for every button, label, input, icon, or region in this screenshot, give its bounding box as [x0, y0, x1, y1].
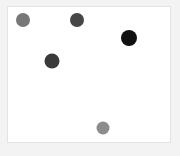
scatter-plot-area	[8, 7, 170, 142]
scatter-point	[45, 54, 60, 69]
scatter-point	[16, 13, 30, 27]
plot-panel	[7, 6, 171, 143]
scatter-point	[70, 13, 84, 27]
scatter-point	[121, 30, 137, 46]
scatter-point	[97, 122, 110, 135]
figure-root	[0, 0, 180, 156]
